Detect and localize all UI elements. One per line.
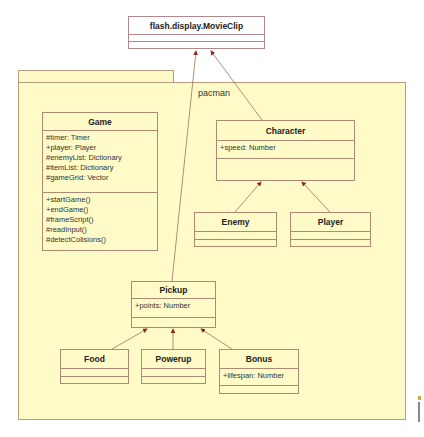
methods-compartment [195, 240, 276, 246]
attributes-compartment: +lifespan: Number [220, 369, 298, 386]
attributes-compartment: #timer: Timer +player: Player #enemyList… [43, 131, 157, 193]
class-character: Character +speed: Number [216, 120, 355, 181]
attributes-compartment [129, 35, 264, 42]
class-name: Game [43, 113, 157, 131]
attribute: #itemList: Dictionary [46, 163, 154, 173]
class-name: Player [291, 213, 370, 232]
method: #detectColisions() [46, 235, 154, 245]
methods-compartment [132, 318, 215, 327]
class-name: Character [217, 121, 354, 141]
edge-artifact [418, 396, 421, 400]
methods-compartment [220, 386, 298, 393]
attribute: +points: Number [135, 301, 212, 311]
attributes-compartment [195, 232, 276, 240]
attributes-compartment [61, 369, 128, 377]
class-enemy: Enemy [194, 212, 277, 247]
edge-artifact [418, 402, 420, 422]
attributes-compartment: +points: Number [132, 299, 215, 318]
attribute: #enemyList: Dictionary [46, 153, 154, 163]
attributes-compartment [291, 232, 370, 240]
attribute: +player: Player [46, 143, 154, 153]
method: +endGame() [46, 205, 154, 215]
package-tab [18, 70, 174, 82]
attribute: +lifespan: Number [223, 371, 295, 381]
methods-compartment [129, 42, 264, 48]
attribute: #gameGrid: Vector [46, 173, 154, 183]
class-bonus: Bonus +lifespan: Number [219, 349, 299, 394]
methods-compartment [142, 377, 205, 383]
methods-compartment [61, 377, 128, 383]
attribute: +speed: Number [220, 143, 351, 153]
method: +startGame() [46, 195, 154, 205]
package-label: pacman [198, 88, 230, 98]
class-name: Bonus [220, 350, 298, 369]
class-food: Food [60, 349, 129, 384]
methods-compartment [291, 240, 370, 246]
class-name: Food [61, 350, 128, 369]
class-name: Enemy [195, 213, 276, 232]
attributes-compartment: +speed: Number [217, 141, 354, 159]
class-name: flash.display.MovieClip [129, 17, 264, 35]
methods-compartment [217, 159, 354, 180]
method: #frameScript() [46, 215, 154, 225]
attributes-compartment [142, 369, 205, 377]
class-movieclip: flash.display.MovieClip [128, 16, 265, 49]
methods-compartment: +startGame() +endGame() #frameScript() #… [43, 193, 157, 250]
class-pickup: Pickup +points: Number [131, 281, 216, 328]
class-name: Pickup [132, 282, 215, 299]
method: #readInput() [46, 225, 154, 235]
class-powerup: Powerup [141, 349, 206, 384]
class-game: Game #timer: Timer +player: Player #enem… [42, 112, 158, 251]
class-name: Powerup [142, 350, 205, 369]
attribute: #timer: Timer [46, 133, 154, 143]
class-player: Player [290, 212, 371, 247]
